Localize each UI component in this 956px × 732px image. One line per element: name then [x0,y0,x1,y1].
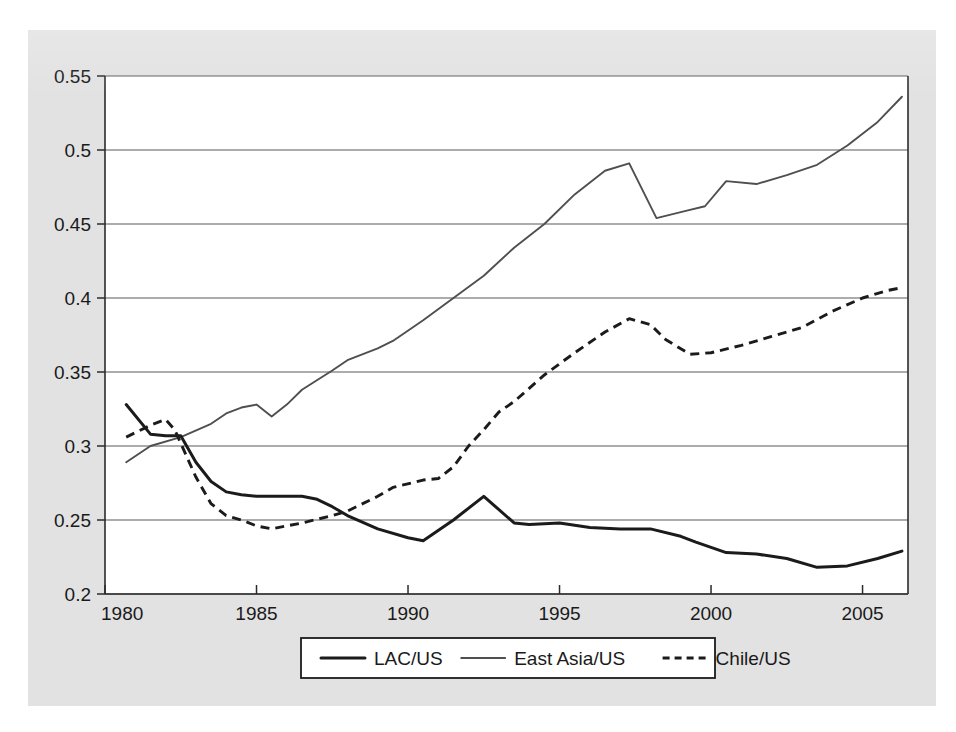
legend-label: Chile/US [716,648,791,669]
legend-label: East Asia/US [514,648,625,669]
y-tick-label: 0.25 [54,510,91,531]
x-tick-label: 1990 [387,603,429,624]
y-tick-label: 0.5 [65,140,91,161]
y-tick-label: 0.45 [54,214,91,235]
y-tick-label: 0.3 [65,436,91,457]
figure-panel: 0.550.50.450.40.350.30.250.2 19801985199… [28,30,936,706]
x-tick-label: 2000 [690,603,732,624]
x-tick-label: 2005 [841,603,883,624]
y-tick-label: 0.55 [54,66,91,87]
y-tick-label: 0.4 [65,288,92,309]
line-chart: 0.550.50.450.40.350.30.250.2 19801985199… [28,30,936,706]
legend-label: LAC/US [374,648,443,669]
x-tick-label: 1985 [235,603,277,624]
y-tick-label: 0.35 [54,362,91,383]
y-tick-label: 0.2 [65,584,91,605]
chart-legend: LAC/USEast Asia/USChile/US [301,638,791,678]
y-axis-ticks: 0.550.50.450.40.350.30.250.2 [54,66,105,605]
x-tick-label: 1980 [101,603,143,624]
x-tick-label: 1995 [538,603,580,624]
